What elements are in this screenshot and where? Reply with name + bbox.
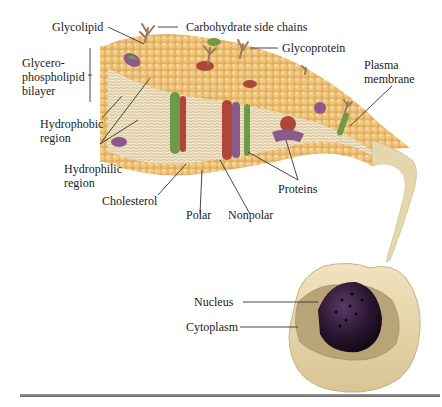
label-cholesterol: Cholesterol [102, 194, 157, 208]
label-plasma-membrane-line2: membrane [364, 72, 415, 86]
cell-body [289, 263, 420, 392]
label-bilayer-line2: phospholipid [22, 70, 85, 84]
label-polar: Polar [186, 208, 211, 222]
label-plasma-membrane-line1: Plasma [364, 58, 399, 72]
label-nucleus: Nucleus [194, 295, 233, 309]
label-carbohydrate-side-chains: Carbohydrate side chains [186, 20, 307, 34]
bottom-rule [20, 394, 440, 397]
label-cytoplasm: Cytoplasm [186, 320, 238, 334]
label-hydrophobic-line2: region [40, 131, 71, 145]
label-glycolipid: Glycolipid [52, 20, 103, 34]
label-bilayer-line1: Glycero- [22, 56, 65, 70]
label-nonpolar: Nonpolar [228, 208, 273, 222]
label-hydrophobic-line1: Hydrophobic [40, 117, 103, 131]
label-bilayer-line3: bilayer [22, 84, 55, 98]
membrane-diagram: Glycolipid Carbohydrate side chains Glyc… [0, 0, 442, 407]
label-hydrophilic-line2: region [64, 176, 95, 190]
label-glycoprotein: Glycoprotein [282, 41, 345, 55]
label-proteins: Proteins [278, 182, 317, 196]
label-hydrophilic-line1: Hydrophilic [64, 162, 122, 176]
